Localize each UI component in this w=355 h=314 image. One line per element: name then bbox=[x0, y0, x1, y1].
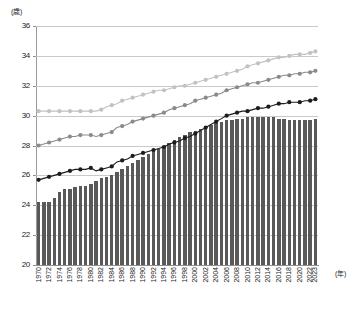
x-axis-tick-label: 1996 bbox=[170, 267, 177, 283]
bar bbox=[152, 151, 155, 265]
bar bbox=[89, 184, 92, 265]
bar bbox=[256, 117, 259, 265]
bar bbox=[194, 131, 197, 265]
x-axis-tick-label: 1984 bbox=[108, 267, 115, 283]
x-axis-unit-label: (年) bbox=[335, 268, 346, 278]
x-axis-tick-label: 2023 bbox=[311, 267, 318, 283]
bar bbox=[204, 126, 207, 265]
y-axis-tick-label: 36 bbox=[8, 21, 30, 30]
bar bbox=[214, 123, 217, 265]
x-axis-tick-label: 2016 bbox=[275, 267, 282, 283]
x-axis-tick-label: 1990 bbox=[139, 267, 146, 283]
bar bbox=[167, 143, 170, 265]
bar-series bbox=[36, 26, 318, 265]
bar bbox=[141, 157, 144, 265]
bar bbox=[120, 169, 123, 265]
x-axis-tick-label: 1992 bbox=[150, 267, 157, 283]
bar bbox=[147, 154, 150, 265]
bar bbox=[225, 120, 228, 265]
x-axis-tick-labels: 1970197219741976197819801982198419861988… bbox=[36, 267, 318, 313]
bar bbox=[94, 181, 97, 265]
y-axis-tick-label: 32 bbox=[8, 81, 30, 90]
x-axis-tick-label: 2010 bbox=[244, 267, 251, 283]
x-axis-tick-label: 2020 bbox=[296, 267, 303, 283]
x-axis-tick-label: 2012 bbox=[254, 267, 261, 283]
x-axis-tick-label: 1978 bbox=[76, 267, 83, 283]
bar bbox=[105, 177, 108, 265]
bar bbox=[58, 192, 61, 265]
x-axis-tick-label: 1998 bbox=[181, 267, 188, 283]
bar bbox=[220, 122, 223, 265]
x-axis-tick-label: 2006 bbox=[223, 267, 230, 283]
bar bbox=[115, 172, 118, 265]
bar bbox=[199, 129, 202, 265]
bar bbox=[282, 119, 285, 265]
bar bbox=[246, 117, 249, 265]
x-axis-tick-label: 1994 bbox=[160, 267, 167, 283]
x-axis-tick-label: 1986 bbox=[118, 267, 125, 283]
x-axis-tick-label: 2000 bbox=[191, 267, 198, 283]
bar bbox=[308, 120, 311, 265]
x-axis-tick-label: 1980 bbox=[87, 267, 94, 283]
bar bbox=[178, 137, 181, 265]
bar bbox=[235, 119, 238, 265]
bar bbox=[100, 178, 103, 265]
bar bbox=[209, 125, 212, 265]
bar bbox=[47, 202, 50, 265]
x-axis-tick-label: 1982 bbox=[97, 267, 104, 283]
y-axis-tick-label: 30 bbox=[8, 111, 30, 120]
bar bbox=[272, 117, 275, 265]
bar bbox=[110, 175, 113, 265]
bar bbox=[230, 120, 233, 265]
x-axis-tick-label: 2014 bbox=[264, 267, 271, 283]
bar bbox=[53, 198, 56, 265]
bar bbox=[188, 132, 191, 265]
bar bbox=[173, 140, 176, 265]
x-axis-tick-label: 1988 bbox=[129, 267, 136, 283]
bar bbox=[267, 117, 270, 265]
x-axis-tick-label: 1970 bbox=[35, 267, 42, 283]
y-axis-tick-label: 34 bbox=[8, 51, 30, 60]
y-axis-tick-label: 24 bbox=[8, 200, 30, 209]
chart-container: (歳) (年) 202224262830323436 1970197219741… bbox=[0, 0, 355, 314]
bar bbox=[73, 187, 76, 265]
bar bbox=[79, 186, 82, 265]
bar bbox=[42, 202, 45, 265]
x-axis-tick-label: 2018 bbox=[285, 267, 292, 283]
y-axis-tick-label: 28 bbox=[8, 141, 30, 150]
bar bbox=[162, 146, 165, 266]
x-axis-tick-label: 2004 bbox=[212, 267, 219, 283]
bar bbox=[37, 202, 40, 265]
bar bbox=[293, 120, 296, 265]
bar bbox=[68, 189, 71, 265]
y-axis-tick-label: 20 bbox=[8, 260, 30, 269]
bar bbox=[288, 120, 291, 265]
bar bbox=[261, 117, 264, 265]
x-axis-tick-label: 1976 bbox=[66, 267, 73, 283]
y-axis-tick-label: 26 bbox=[8, 170, 30, 179]
y-axis-tick-label: 22 bbox=[8, 230, 30, 239]
bar bbox=[303, 120, 306, 265]
bar bbox=[241, 119, 244, 265]
bar bbox=[298, 120, 301, 265]
bar bbox=[84, 186, 87, 265]
bar bbox=[126, 166, 129, 265]
bar bbox=[277, 119, 280, 265]
x-axis-tick-label: 2002 bbox=[202, 267, 209, 283]
bar bbox=[63, 189, 66, 265]
bar bbox=[157, 149, 160, 266]
plot-area bbox=[36, 26, 318, 265]
bar bbox=[131, 163, 134, 265]
bar bbox=[183, 135, 186, 265]
bar bbox=[251, 117, 254, 265]
x-axis-tick-label: 1974 bbox=[56, 267, 63, 283]
bar bbox=[136, 160, 139, 265]
y-axis-unit-label: (歳) bbox=[11, 6, 22, 16]
bar bbox=[314, 119, 317, 265]
x-axis-tick-label: 2008 bbox=[233, 267, 240, 283]
x-axis-tick-label: 1972 bbox=[45, 267, 52, 283]
